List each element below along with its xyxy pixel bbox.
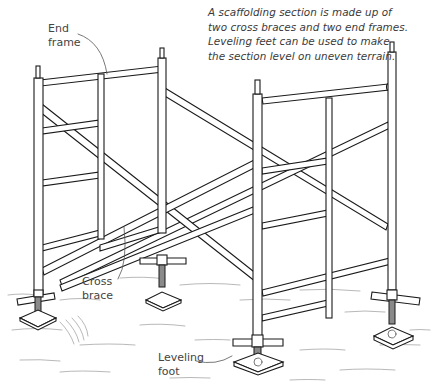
cross-brace-label-line2: brace <box>82 289 113 303</box>
caption-line: the section level on uneven terrain. <box>208 49 436 64</box>
leveling-foot-front-right <box>233 335 283 375</box>
cross-brace-label-line1: Cross <box>82 275 113 289</box>
ground-texture <box>8 277 430 380</box>
leveling-foot-rear-left <box>140 255 186 311</box>
leveling-foot-label-line1: Leveling <box>158 351 204 365</box>
caption-line: A scaffolding section is made up of <box>208 5 436 20</box>
caption-line: two cross braces and two end frames. <box>208 20 436 35</box>
leveling-foot-label-line2: foot <box>158 365 204 379</box>
end-frame-label-line2: frame <box>48 36 81 50</box>
caption-line: Leveling feet can be used to make <box>208 34 436 49</box>
end-frame-label-line1: End <box>48 22 81 36</box>
leveling-foot-rear-right <box>371 290 420 349</box>
leveling-foot-front-left <box>17 290 56 330</box>
leveling-foot-label: Leveling foot <box>158 351 204 378</box>
end-frame-label: End frame <box>48 22 81 49</box>
figure-caption: A scaffolding section is made up of two … <box>208 5 436 63</box>
end-frame-leader <box>78 34 107 74</box>
cross-brace-label: Cross brace <box>82 275 113 302</box>
